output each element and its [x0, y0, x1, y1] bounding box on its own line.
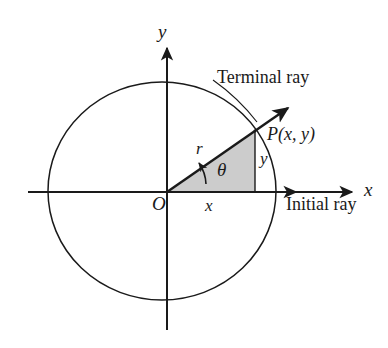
- figure-canvas: [0, 0, 388, 348]
- angle-theta-label: θ: [217, 160, 226, 179]
- y-axis-label: y: [158, 22, 166, 41]
- adjacent-leg-label: x: [205, 197, 213, 214]
- initial-ray-label: Initial ray: [286, 195, 356, 213]
- x-axis-label: x: [364, 180, 372, 199]
- trig-unit-circle-figure: y x O r θ y x P(x, y) Terminal ray Initi…: [0, 0, 388, 348]
- point-p-label: P(x, y): [267, 125, 315, 143]
- point-p-marker: [254, 130, 257, 133]
- radius-label: r: [196, 140, 203, 157]
- terminal-ray-label: Terminal ray: [217, 68, 309, 86]
- opposite-leg-label: y: [260, 150, 268, 167]
- origin-label: O: [152, 194, 166, 213]
